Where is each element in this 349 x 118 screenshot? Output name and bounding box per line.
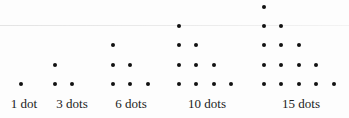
dot (194, 82, 198, 86)
dot (70, 82, 74, 86)
triangular-numbers-figure: 1 dot 3 dots 6 dots 10 dots 15 dots (0, 0, 349, 118)
dot (262, 82, 266, 86)
dot (297, 63, 301, 67)
dot (128, 82, 132, 86)
dot (297, 43, 301, 47)
dot (19, 82, 23, 86)
dot (279, 43, 283, 47)
label-1-dot: 1 dot (11, 96, 37, 112)
dot (177, 43, 181, 47)
dot (229, 82, 233, 86)
label-10-dots: 10 dots (188, 96, 226, 112)
dot (111, 43, 115, 47)
dot (262, 63, 266, 67)
dot (53, 82, 57, 86)
dot (212, 82, 216, 86)
dot (262, 43, 266, 47)
dot (279, 82, 283, 86)
dot (53, 63, 57, 67)
dot (332, 82, 336, 86)
label-6-dots: 6 dots (115, 96, 146, 112)
dot (212, 63, 216, 67)
dot (297, 82, 301, 86)
dot (177, 82, 181, 86)
dot (279, 24, 283, 28)
label-15-dots: 15 dots (282, 96, 320, 112)
dot (111, 63, 115, 67)
dot (194, 43, 198, 47)
dot (314, 63, 318, 67)
dot (146, 82, 150, 86)
dot (262, 5, 266, 9)
dot (194, 63, 198, 67)
dot (128, 63, 132, 67)
label-3-dots: 3 dots (56, 96, 87, 112)
scan-artifact-line (0, 25, 349, 26)
dot (262, 24, 266, 28)
dot (314, 82, 318, 86)
dot (279, 63, 283, 67)
dot (177, 24, 181, 28)
dot (111, 82, 115, 86)
dot (177, 63, 181, 67)
